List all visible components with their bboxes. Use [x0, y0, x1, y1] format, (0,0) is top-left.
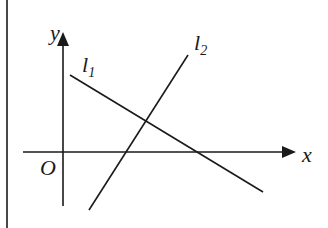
y-axis-label: y	[48, 20, 60, 45]
diagram-svg: y x O l1 l2	[0, 0, 328, 228]
diagram-canvas: y x O l1 l2	[0, 0, 328, 228]
line-l2-label: l2	[194, 30, 207, 58]
line-l1-label: l1	[82, 52, 95, 80]
x-axis-arrow-icon	[282, 146, 296, 158]
x-axis-label: x	[301, 142, 312, 167]
line-l1	[70, 75, 263, 192]
origin-label: O	[40, 155, 56, 180]
line-l2	[89, 55, 188, 210]
